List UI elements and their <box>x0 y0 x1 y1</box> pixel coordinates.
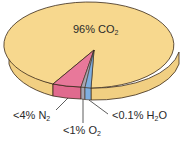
label-co2: 96% CO2 <box>73 23 118 39</box>
leader-line-h2o <box>89 100 108 114</box>
label-o2: <1% O2 <box>63 124 101 140</box>
label-n2: <4% N2 <box>13 109 50 125</box>
pie-side-h2o <box>85 88 91 101</box>
label-h2o: <0.1% H2O <box>112 109 167 125</box>
leader-line-n2 <box>56 98 68 110</box>
pie-side-o2 <box>81 87 85 100</box>
